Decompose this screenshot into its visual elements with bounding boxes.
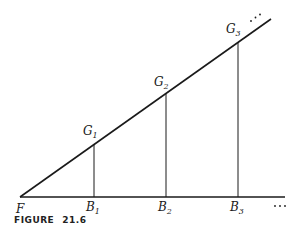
- label-g2: G2: [154, 75, 169, 91]
- baseline-ellipsis: [274, 205, 286, 207]
- label-b3: B3: [229, 200, 244, 216]
- label-f: F: [15, 202, 25, 216]
- diagonal-line: [20, 19, 271, 197]
- caption-number: 21.6: [62, 215, 86, 225]
- label-g3: G3: [226, 22, 241, 38]
- diagonal-ellipsis: [250, 14, 261, 22]
- label-b1: B1: [85, 200, 100, 216]
- label-b2: B2: [157, 200, 172, 216]
- figure-caption: FIGURE21.6: [14, 215, 87, 225]
- geometry-diagram: F B1 B2 B3 G1 G2 G3: [0, 0, 301, 236]
- label-g1: G1: [83, 124, 98, 140]
- caption-label: FIGURE: [14, 215, 54, 225]
